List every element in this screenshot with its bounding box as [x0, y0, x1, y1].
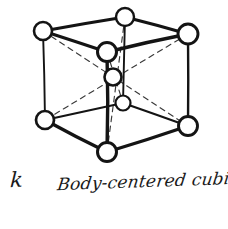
- figure-page: k Body-centered cubic: [0, 0, 228, 229]
- atom-center: [105, 69, 122, 86]
- panel-label: k: [9, 170, 23, 192]
- figure-caption: Body-centered cubic: [56, 168, 228, 194]
- atom-top-front-right: [178, 24, 198, 44]
- atom-bottom-back: [116, 96, 131, 111]
- edge-top-front-left-to-bottom-front: [107, 52, 108, 152]
- atom-bottom-left: [36, 111, 54, 129]
- atom-bottom-front: [98, 143, 117, 162]
- atom-top-back-left: [34, 22, 52, 40]
- atom-top-front-left: [98, 43, 117, 62]
- atom-top-back-center: [116, 8, 134, 26]
- caption-area: k Body-centered cubic: [0, 160, 228, 229]
- atom-bottom-right: [179, 117, 198, 136]
